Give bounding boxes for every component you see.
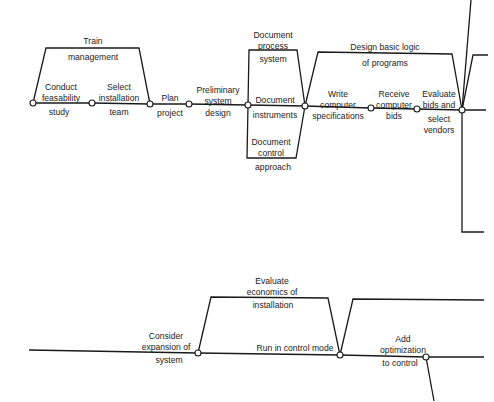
label-doc-instr-bottom: instruments [253,110,297,121]
label-receive-bids-bottom: bids [386,111,402,122]
label-doc-process-bottom: system [259,54,286,65]
event-node [368,105,374,111]
event-node [337,352,343,358]
label-add-opt-top: Add optimization [380,334,426,355]
label-plan-bottom: project [157,108,183,119]
label-consider-exp-bottom: system [155,355,182,366]
label-prelim-bottom: design [205,108,230,119]
label-doc-control-top: Document control [251,137,290,158]
label-feasibility-bottom: study [49,107,70,118]
event-node [459,107,465,113]
event-node [302,103,308,109]
label-eval-econ-top: Evaluate economics of [247,276,298,297]
event-node [186,101,192,107]
label-prelim-top: Preliminary system [197,85,240,106]
label-evaluate-bids-bottom: select vendors [424,114,455,135]
label-consider-exp-top: Consider expansion of [142,331,191,352]
label-train-bottom: management [68,52,118,63]
branch-down [462,110,484,232]
label-feasibility-top: Conduct feasability [42,82,80,103]
event-node [30,100,36,106]
label-design-logic-bottom: of programs [362,58,408,69]
label-doc-process-top: Document process [253,30,292,51]
label-eval-econ-bottom: installation [253,300,294,311]
label-run-control: Run in control mode [257,343,334,354]
label-design-logic-top: Design basic logic [350,42,419,53]
label-write-spec-bottom: specifications [312,111,364,122]
label-plan-top: Plan [161,93,178,104]
label-doc-instr-top: Document [255,95,294,106]
event-node [195,350,201,356]
event-node [89,100,95,106]
label-train-top: Train [83,36,102,47]
branch-up [462,0,471,110]
label-write-spec-top: Write computer [320,89,356,110]
event-node [147,101,153,107]
label-select-team-bottom: team [109,107,128,118]
event-node [414,106,420,112]
branch-bottom-down [426,357,434,401]
label-add-opt-bottom: to control [382,358,417,369]
label-receive-bids-top: Receive computer [376,89,412,110]
event-node [245,102,251,108]
label-evaluate-bids-top: Evaluate bids and [422,89,455,110]
label-doc-control-bottom: approach [255,162,291,173]
label-select-team-top: Select installation [99,82,140,103]
